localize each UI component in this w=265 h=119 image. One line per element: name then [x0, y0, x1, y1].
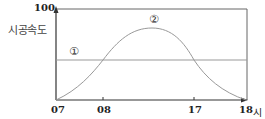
x-tick-17: 17	[188, 104, 202, 115]
series-2-curve	[56, 28, 246, 100]
x-tick-18: 18	[239, 104, 253, 115]
chart-canvas	[0, 0, 265, 119]
series-2-marker: ②	[149, 13, 159, 26]
x-tick-08: 08	[97, 104, 111, 115]
x-tick-07: 07	[51, 104, 65, 115]
y-max-tick: 100	[34, 2, 55, 13]
y-axis-label: 시공속도	[8, 21, 46, 37]
x-axis-unit: 시	[253, 104, 262, 119]
series-1-marker: ①	[69, 45, 79, 58]
